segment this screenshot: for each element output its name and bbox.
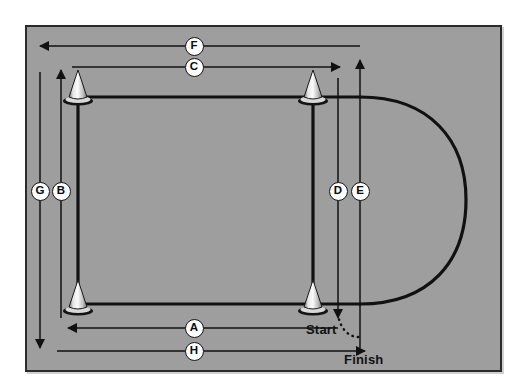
- cone-bottom-right: [298, 280, 328, 316]
- marker-letter-h: H: [185, 342, 204, 361]
- diagram-vector-layer: [0, 0, 527, 387]
- start-label: Start: [306, 322, 337, 337]
- marker-letter-a: A: [185, 319, 204, 338]
- marker-letter-d: D: [329, 182, 348, 201]
- marker-letter-b: B: [52, 182, 71, 201]
- marker-letter-c: C: [185, 58, 204, 77]
- marker-letter-f: F: [185, 37, 204, 56]
- finish-label: Finish: [344, 352, 383, 367]
- marker-letter-g: G: [31, 182, 50, 201]
- cone-top-right: [298, 70, 328, 106]
- diagram-canvas: A B C D E F G H Start Finish: [0, 0, 527, 387]
- cone-group: [63, 70, 328, 316]
- course-path: [78, 97, 466, 304]
- course-u-turn: [360, 97, 466, 304]
- marker-letter-e: E: [351, 182, 370, 201]
- cone-top-left: [63, 70, 93, 106]
- dotted-start-finish-connector: [338, 314, 361, 337]
- cone-bottom-left: [63, 280, 93, 316]
